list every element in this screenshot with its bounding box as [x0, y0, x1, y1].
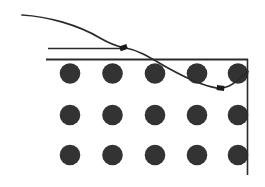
array-circle: [187, 63, 208, 84]
array-circle: [60, 105, 81, 126]
curve-marker-2: [217, 85, 225, 91]
array-circle: [102, 145, 123, 166]
array-circle: [187, 145, 208, 166]
array-circle: [102, 63, 123, 84]
array-circle: [145, 63, 166, 84]
array-circle: [145, 105, 166, 126]
figure-background: [0, 0, 265, 187]
array-circle: [60, 145, 81, 166]
array-circle: [60, 63, 81, 84]
array-circle: [187, 105, 208, 126]
figure-canvas: Descending curve over circular element a…: [0, 0, 265, 187]
array-circle: [228, 145, 249, 166]
array-circle: [228, 105, 249, 126]
array-circle: [102, 105, 123, 126]
figure-svg: [0, 0, 265, 187]
array-circle: [145, 145, 166, 166]
